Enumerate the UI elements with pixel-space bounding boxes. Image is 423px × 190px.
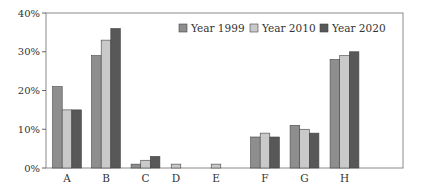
x-tick-label: E <box>212 172 220 184</box>
bar-b-year-1999 <box>92 56 102 168</box>
bar-group-d <box>171 164 181 168</box>
y-tick-label: 10% <box>18 124 40 135</box>
y-axis: 0%10%20%30%40% <box>18 8 46 174</box>
x-tick-label: B <box>102 172 110 184</box>
legend-swatch-icon <box>250 24 258 32</box>
bar-group-f <box>251 133 280 168</box>
legend-label: Year 1999 <box>190 22 245 34</box>
bar-e-year-2010 <box>211 164 221 168</box>
bar-g-year-2010 <box>300 129 310 168</box>
y-tick-label: 0% <box>24 163 40 174</box>
bar-b-year-2020 <box>111 29 121 169</box>
x-tick-label: A <box>62 172 71 184</box>
bar-d-year-2010 <box>171 164 181 168</box>
bar-h-year-2010 <box>340 56 350 168</box>
y-tick-label: 40% <box>18 8 40 19</box>
y-tick-label: 30% <box>18 46 40 57</box>
legend: Year 1999Year 2010Year 2020 <box>179 22 386 34</box>
bar-c-year-2020 <box>150 156 160 168</box>
bar-a-year-2020 <box>72 110 82 168</box>
bar-chart: 0%10%20%30%40% ABCDEFGH Year 1999Year 20… <box>0 0 423 190</box>
bar-group-a <box>53 87 82 168</box>
legend-swatch-icon <box>179 24 187 32</box>
legend-label: Year 2010 <box>261 22 316 34</box>
bar-group-b <box>92 29 121 169</box>
legend-label: Year 2020 <box>331 22 386 34</box>
bar-f-year-1999 <box>251 137 261 168</box>
x-tick-label: H <box>340 172 349 184</box>
bar-f-year-2020 <box>270 137 280 168</box>
bar-group-g <box>290 125 319 168</box>
chart-canvas: 0%10%20%30%40% ABCDEFGH Year 1999Year 20… <box>0 0 423 190</box>
bar-group-h <box>330 52 359 168</box>
bar-h-year-2020 <box>349 52 359 168</box>
bar-g-year-2020 <box>309 133 319 168</box>
x-tick-label: G <box>300 172 308 184</box>
bar-c-year-2010 <box>141 160 151 168</box>
x-tick-label: D <box>172 172 180 184</box>
bar-a-year-1999 <box>53 87 63 168</box>
bar-group-c <box>131 156 160 168</box>
bar-f-year-2010 <box>260 133 270 168</box>
y-tick-label: 20% <box>18 85 40 96</box>
bar-group-e <box>211 164 221 168</box>
legend-swatch-icon <box>320 24 328 32</box>
bar-b-year-2010 <box>101 40 111 168</box>
bar-a-year-2010 <box>62 110 72 168</box>
bar-c-year-1999 <box>131 164 141 168</box>
x-axis: ABCDEFGH <box>62 172 349 184</box>
x-tick-label: C <box>141 172 149 184</box>
bar-h-year-1999 <box>330 60 340 169</box>
bar-g-year-1999 <box>290 125 300 168</box>
x-tick-label: F <box>261 172 268 184</box>
bars <box>53 29 359 169</box>
